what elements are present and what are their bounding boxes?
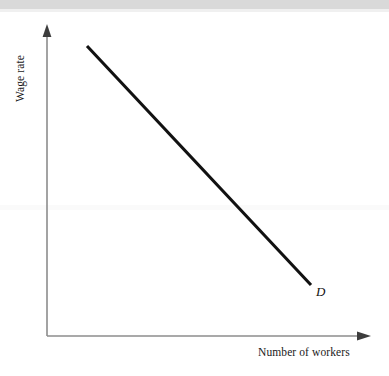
y-axis-arrow-icon [43,24,52,37]
x-axis-label: Number of workers [258,346,350,358]
plot-area [0,0,389,376]
demand-curve-line [87,46,311,285]
x-axis-arrow-icon [357,331,371,340]
labor-demand-figure: Wage rate Number of workers D [0,0,389,376]
demand-curve-label: D [316,284,325,300]
y-axis-label: Wage rate [14,55,26,102]
